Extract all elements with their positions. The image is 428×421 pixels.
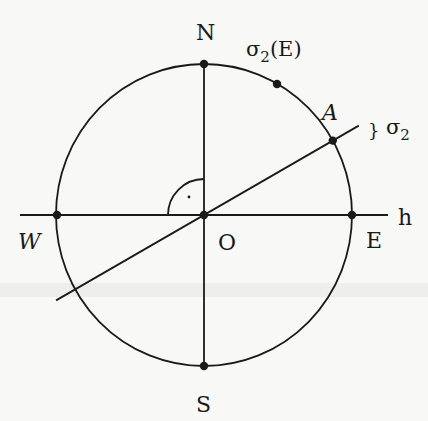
label-E: E xyxy=(366,228,382,253)
right-angle-arc xyxy=(168,179,204,215)
plane-tilde-mark: } xyxy=(368,120,379,141)
right-angle-dot xyxy=(188,196,191,199)
label-A: A xyxy=(320,100,338,125)
label-sigma2-E-sub: 2 xyxy=(260,48,270,66)
diagram-svg: N S E W O A h σ2(E) } σ2 xyxy=(0,0,428,421)
point-E xyxy=(348,211,356,219)
diagram-canvas: N S E W O A h σ2(E) } σ2 xyxy=(0,0,428,421)
label-sigma2: σ2 xyxy=(386,115,410,144)
label-S: S xyxy=(196,392,211,417)
label-O: O xyxy=(218,230,236,255)
label-sigma2-sub: 2 xyxy=(400,126,410,144)
point-O xyxy=(200,211,208,219)
label-sigma2-base: σ xyxy=(386,115,400,139)
point-sigma2-E xyxy=(273,80,281,88)
point-N xyxy=(200,60,208,68)
point-S xyxy=(200,362,208,370)
label-sigma2-E: σ2(E) xyxy=(246,37,302,66)
label-N: N xyxy=(196,20,215,45)
label-sigma2-E-base: σ xyxy=(246,37,260,61)
label-h: h xyxy=(398,205,412,230)
point-W xyxy=(53,211,61,219)
label-W: W xyxy=(18,229,43,254)
point-A xyxy=(329,136,337,144)
label-sigma2-E-suffix: (E) xyxy=(270,37,302,61)
